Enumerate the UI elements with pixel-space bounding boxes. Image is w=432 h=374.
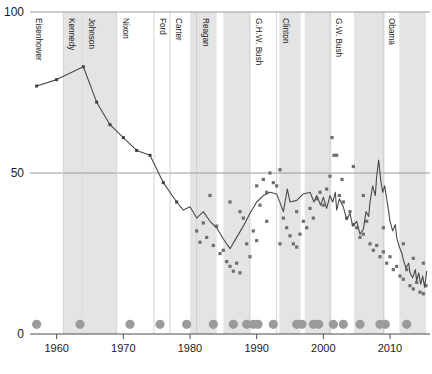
scatter-point: [265, 220, 268, 223]
scatter-point: [422, 292, 425, 295]
scatter-point: [395, 265, 398, 268]
administration-label-nixon: Nixon: [121, 18, 130, 39]
scatter-point: [195, 229, 198, 232]
line-marker: [55, 78, 58, 81]
administration-label-g-w-bush: G.W. Bush: [334, 18, 343, 58]
administration-label-reagan: Reagan: [201, 18, 210, 47]
y-tick-label: 0: [17, 327, 24, 341]
scatter-point: [285, 226, 288, 229]
scatter-point: [352, 165, 355, 168]
scatter-point: [272, 181, 275, 184]
scatter-point: [252, 229, 255, 232]
scatter-point: [242, 216, 245, 219]
administration-label-obama: Obama: [387, 18, 396, 45]
scatter-point: [295, 245, 298, 248]
scatter-point: [222, 249, 225, 252]
scatter-point: [335, 154, 338, 157]
event-dot: [314, 320, 323, 329]
scatter-point: [378, 255, 381, 258]
event-dot: [269, 320, 278, 329]
x-tick-label: 2010: [378, 342, 402, 354]
line-marker: [175, 200, 178, 203]
event-dot: [381, 320, 390, 329]
scatter-point: [235, 262, 238, 265]
scatter-point: [402, 278, 405, 281]
scatter-point: [238, 210, 241, 213]
event-dot: [75, 320, 84, 329]
administration-label-carter: Carter: [174, 18, 183, 41]
scatter-point: [225, 260, 228, 263]
scatter-point: [322, 204, 325, 207]
scatter-point: [282, 216, 285, 219]
scatter-point: [278, 242, 281, 245]
line-marker: [162, 181, 165, 184]
event-dot: [209, 320, 218, 329]
scatter-point: [295, 210, 298, 213]
scatter-point: [238, 271, 241, 274]
scatter-point: [362, 194, 365, 197]
scatter-point: [278, 168, 281, 171]
y-tick-label: 100: [4, 5, 24, 19]
scatter-point: [228, 265, 231, 268]
event-dot: [253, 320, 262, 329]
scatter-point: [208, 194, 211, 197]
line-marker: [109, 123, 112, 126]
event-dot: [125, 320, 134, 329]
scatter-point: [412, 257, 415, 260]
scatter-point: [212, 244, 215, 247]
scatter-point: [405, 268, 408, 271]
scatter-point: [248, 255, 251, 258]
y-tick-label: 50: [11, 166, 25, 180]
line-marker: [35, 85, 38, 88]
y-tick-labels: 050100: [4, 5, 24, 341]
event-dot: [329, 320, 338, 329]
scatter-point: [302, 220, 305, 223]
administration-label-kennedy: Kennedy: [67, 18, 76, 51]
administration-label-eisenhower: Eisenhower: [34, 18, 43, 61]
line-marker: [135, 149, 138, 152]
line-marker: [149, 154, 152, 157]
x-tick-label: 1960: [44, 342, 68, 354]
scatter-point: [325, 188, 328, 191]
scatter-point: [255, 239, 258, 242]
scatter-point: [358, 236, 361, 239]
scatter-point: [318, 191, 321, 194]
scatter-point: [365, 220, 368, 223]
x-tick-label: 1980: [178, 342, 202, 354]
scatter-point: [342, 200, 345, 203]
scatter-point: [375, 244, 378, 247]
scatter-point: [312, 216, 315, 219]
scatter-point: [328, 175, 331, 178]
scatter-point: [422, 262, 425, 265]
scatter-point: [198, 241, 201, 244]
x-axis: [30, 334, 430, 339]
event-dot: [229, 320, 238, 329]
x-tick-label: 1970: [111, 342, 135, 354]
x-tick-label: 2000: [311, 342, 335, 354]
scatter-point: [258, 204, 261, 207]
scatter-point: [268, 171, 271, 174]
administration-label-johnson: Johnson: [87, 18, 96, 49]
scatter-point: [338, 194, 341, 197]
scatter-point: [298, 233, 301, 236]
line-marker: [82, 65, 85, 68]
event-dot: [402, 320, 411, 329]
scatter-point: [362, 233, 365, 236]
event-dot: [32, 320, 41, 329]
event-dot: [339, 320, 348, 329]
scatter-point: [308, 207, 311, 210]
scatter-point: [288, 234, 291, 237]
event-dot: [355, 320, 364, 329]
x-tick-labels: 196019701980199020002010: [44, 342, 402, 354]
line-marker: [122, 136, 125, 139]
event-dot: [297, 320, 306, 329]
scatter-point: [382, 226, 385, 229]
scatter-point: [412, 287, 415, 290]
x-tick-label: 1990: [244, 342, 268, 354]
scatter-point: [372, 249, 375, 252]
scatter-point: [202, 221, 205, 224]
administration-label-ford: Ford: [158, 18, 167, 35]
scatter-point: [292, 242, 295, 245]
scatter-point: [368, 242, 371, 245]
scatter-point: [340, 178, 343, 181]
